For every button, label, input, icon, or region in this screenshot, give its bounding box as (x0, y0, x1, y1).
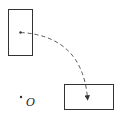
center-label: O (26, 97, 35, 108)
rotation-arc-arrow (21, 33, 88, 99)
rotation-diagram: O (0, 0, 119, 114)
rotated-rectangle (65, 85, 114, 110)
center-point (20, 96, 22, 98)
diagram-canvas (0, 0, 119, 114)
